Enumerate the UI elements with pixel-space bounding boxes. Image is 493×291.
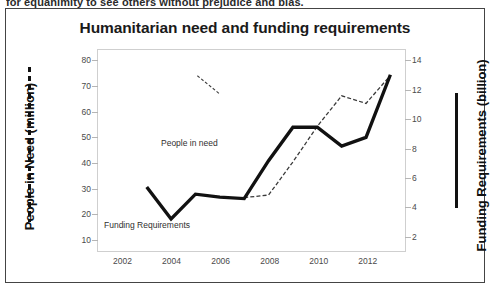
y-axis-tick-label: 20 xyxy=(82,209,91,219)
y2-axis-tick-mark xyxy=(405,207,411,208)
y2-axis-tick-mark xyxy=(405,90,411,91)
y2-axis-tick-mark xyxy=(405,119,411,120)
y-axis-tick-mark xyxy=(92,214,98,215)
y2-axis-tick-label: 6 xyxy=(412,173,417,183)
y2-axis-tick-label: 12 xyxy=(412,85,421,95)
right-axis-title: Funding Requirements (billion) xyxy=(474,62,489,252)
cropped-body-text: for equanimity to see others without pre… xyxy=(6,0,486,8)
y-axis-tick-label: 30 xyxy=(82,184,91,194)
y2-axis-tick-mark xyxy=(405,60,411,61)
series-line-people-in-need xyxy=(244,75,390,197)
x-axis-tick-label: 2004 xyxy=(162,256,181,266)
y-axis-tick-mark xyxy=(92,137,98,138)
y-axis-tick-label: 40 xyxy=(82,158,91,168)
y2-axis-tick-label: 10 xyxy=(412,114,421,124)
y-axis-tick-mark xyxy=(92,163,98,164)
y2-axis-tick-mark xyxy=(405,149,411,150)
y-axis-tick-label: 70 xyxy=(82,81,91,91)
y-axis-tick-mark xyxy=(92,240,98,241)
y-axis-tick-label: 50 xyxy=(82,132,91,142)
left-axis-accent-bar xyxy=(28,67,31,222)
y-axis-tick-label: 10 xyxy=(82,235,91,245)
chart-title: Humanitarian need and funding requiremen… xyxy=(6,19,484,37)
right-axis-accent-bar xyxy=(455,93,458,208)
y-axis-tick-mark xyxy=(92,189,98,190)
x-axis-tick-label: 2012 xyxy=(358,256,377,266)
y-axis-tick-mark xyxy=(92,86,98,87)
series-label-people-in-need: People in need xyxy=(161,138,218,148)
plot-area: People in need Funding Requirements 1020… xyxy=(97,49,406,252)
y-axis-tick-mark xyxy=(92,60,98,61)
y-axis-tick-label: 80 xyxy=(82,55,91,65)
people-in-need-leader-line xyxy=(197,76,219,94)
y2-axis-tick-mark xyxy=(405,237,411,238)
x-axis-tick-label: 2002 xyxy=(113,256,132,266)
series-label-funding-requirements: Funding Requirements xyxy=(104,220,190,230)
x-axis-tick-label: 2010 xyxy=(309,256,328,266)
x-axis-tick-label: 2006 xyxy=(211,256,230,266)
y2-axis-tick-label: 4 xyxy=(412,202,417,212)
y2-axis-tick-label: 14 xyxy=(412,55,421,65)
figure-container: Humanitarian need and funding requiremen… xyxy=(5,8,485,283)
y2-axis-tick-label: 2 xyxy=(412,232,417,242)
y2-axis-tick-label: 8 xyxy=(412,144,417,154)
y2-axis-tick-mark xyxy=(405,178,411,179)
x-axis-tick-label: 2008 xyxy=(260,256,279,266)
y-axis-tick-mark xyxy=(92,112,98,113)
screenshot-root: for equanimity to see others without pre… xyxy=(0,0,493,291)
y-axis-tick-label: 60 xyxy=(82,107,91,117)
